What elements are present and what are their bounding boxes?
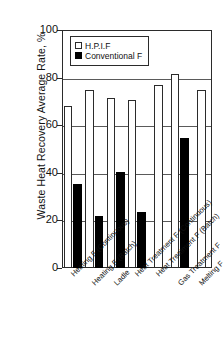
legend-item-conventional-f: Conventional F [75,52,142,61]
x-tick-label: Heating F (Continuous) [69,216,131,278]
x-tick-label: Ladle [112,268,132,288]
legend-label-hpif: H.P.I.F [85,42,110,51]
waste-heat-recovery-bar-chart: Waste Heat Recovery Average Rate, % 1008… [0,0,224,348]
legend-label-conventional-f: Conventional F [85,52,142,61]
filled-square-marker-icon [75,52,82,59]
open-square-marker-icon [75,42,82,49]
chart-legend: H.P.I.F Conventional F [70,36,149,66]
legend-item-hpif: H.P.I.F [75,42,142,51]
